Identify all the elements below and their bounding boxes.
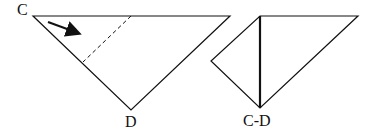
fold-line-dashed (83, 16, 131, 62)
diagram-graphics (0, 0, 368, 139)
label-c: C (17, 2, 28, 18)
fold-arrow-icon (48, 22, 78, 33)
left-triangle (33, 16, 230, 110)
folding-diagram: C D C-D (0, 0, 368, 139)
label-d: D (125, 114, 137, 130)
label-c-d: C-D (243, 113, 271, 129)
right-folded-shape (211, 16, 358, 108)
